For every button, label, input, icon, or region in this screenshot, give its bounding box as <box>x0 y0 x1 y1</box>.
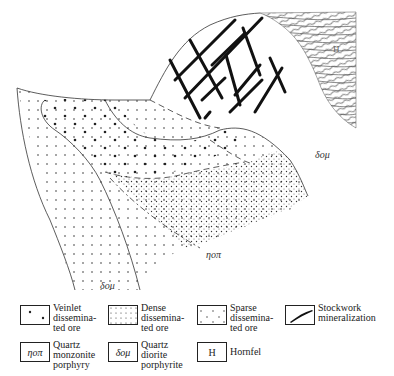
hornfel-label: H <box>333 44 340 54</box>
geological-map: H δομ δομ ηοπ <box>0 0 394 290</box>
qmp-swatch: ηοπ <box>20 342 50 362</box>
sparse-swatch <box>197 305 227 325</box>
legend-item-sparse: Sparse dissemina- ted ore <box>197 305 273 333</box>
legend-item-qdp: δομ Quartz diorite porphyrite <box>108 342 183 370</box>
legend-item-veinlet: Veinlet dissemina- ted ore <box>20 305 96 333</box>
qdp-label-right: δομ <box>315 149 330 160</box>
qdp-swatch: δομ <box>108 342 138 362</box>
veinlet-swatch <box>20 305 50 325</box>
legend-label: Stockwork mineralization <box>318 303 376 323</box>
hornfel-swatch: H <box>197 342 227 362</box>
stockwork-veins <box>170 18 285 118</box>
legend-item-dense: Dense dissemina- ted ore <box>108 305 184 333</box>
legend-label: Quartz diorite porphyrite <box>141 340 183 370</box>
legend-label: Veinlet dissemina- ted ore <box>53 303 96 333</box>
dense-swatch <box>108 305 138 325</box>
legend-label: Sparse dissemina- ted ore <box>230 303 273 333</box>
legend-item-qmp: ηοπ Quartz monzonite porphyry <box>20 342 95 370</box>
legend-item-stockwork: Stockwork mineralization <box>285 305 376 325</box>
legend-label: Hornfel <box>230 347 261 357</box>
legend: Veinlet dissemina- ted ore Dense dissemi… <box>0 300 394 376</box>
legend-label: Dense dissemina- ted ore <box>141 303 184 333</box>
qmp-label: ηοπ <box>206 249 222 260</box>
legend-item-hornfel: H Hornfel <box>197 342 261 362</box>
stockwork-swatch <box>285 305 315 325</box>
qdp-label-bottom: δομ <box>100 280 115 290</box>
legend-label: Quartz monzonite porphyry <box>53 340 95 370</box>
